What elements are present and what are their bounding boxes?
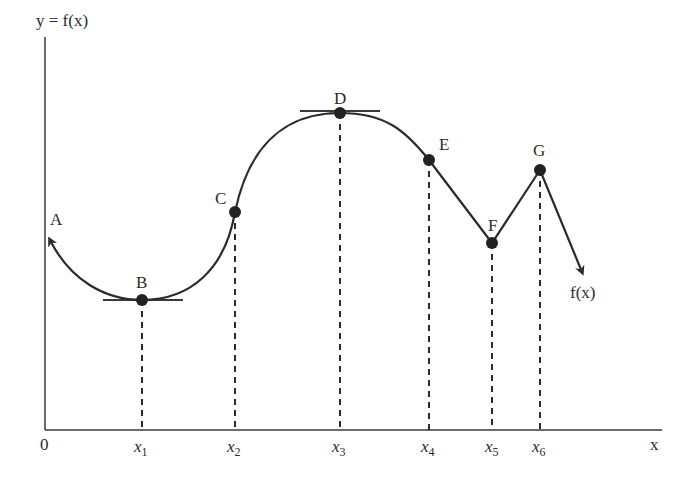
x-axis-label: x xyxy=(650,435,659,454)
point-c xyxy=(229,206,241,218)
point-f xyxy=(486,237,498,249)
point-label-g: G xyxy=(533,141,545,160)
function-curve-tail xyxy=(540,170,582,272)
origin-label: 0 xyxy=(40,435,49,454)
x-tick-4: x4 xyxy=(420,437,435,459)
point-label-e: E xyxy=(439,135,449,154)
point-e xyxy=(423,154,435,166)
curve-label: f(x) xyxy=(570,283,595,302)
function-graph: A B C D E F G y = f(x) x 0 f(x) x1 x2 x3… xyxy=(0,0,696,484)
point-d xyxy=(334,107,346,119)
point-b xyxy=(136,294,148,306)
x-tick-5: x5 xyxy=(484,437,499,459)
point-label-a: A xyxy=(50,210,63,229)
point-label-d: D xyxy=(334,89,346,108)
y-axis-label: y = f(x) xyxy=(36,11,88,30)
point-label-b: B xyxy=(136,273,147,292)
function-curve xyxy=(50,240,142,300)
drop-lines xyxy=(142,113,540,430)
point-label-f: F xyxy=(488,216,497,235)
x-tick-1: x1 xyxy=(133,437,148,459)
x-tick-3: x3 xyxy=(331,437,346,459)
point-g xyxy=(534,164,546,176)
x-tick-6: x6 xyxy=(531,437,546,459)
x-tick-2: x2 xyxy=(226,437,241,459)
point-label-c: C xyxy=(215,189,226,208)
